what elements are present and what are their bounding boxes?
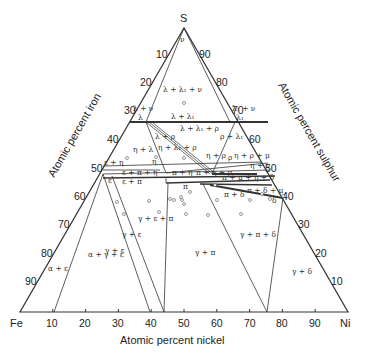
bottom-tick-70: 70	[244, 317, 256, 329]
label-rho: ρ	[228, 153, 233, 162]
bottom-tick-60: 60	[211, 317, 223, 329]
phase-boundaries	[54, 28, 283, 312]
label-eta-l: η + λ	[133, 145, 154, 154]
right-tick-10: 10	[331, 275, 343, 287]
label-gam-pi-delta: γ + π + δ	[240, 230, 277, 239]
right-tick-80: 80	[216, 76, 228, 88]
label-a-gam-eps: α + γ + ε	[88, 250, 124, 259]
phase-labels: ν λ + λ₁ + ν λ + ν λ₁ + ν λ λ + λ₁ λ₁ λ …	[48, 35, 313, 276]
bottom-tick-10: 10	[46, 317, 58, 329]
ternary-phase-diagram: S Fe Ni 10 20 30 40 50 60 70 80 90 Atomi…	[0, 0, 369, 357]
label-pi-eta: π + η	[172, 168, 193, 177]
label-gam-delta: γ + δ	[292, 267, 313, 276]
label-a-eps: α + ε	[48, 264, 68, 273]
label-eta-rho-mu: η + ρ + μ	[234, 151, 270, 160]
left-tick-70: 70	[58, 218, 70, 230]
label-l-left: λ	[138, 113, 143, 122]
label-eps-eta: ε + η	[104, 158, 124, 167]
left-tick-50: 50	[91, 162, 103, 174]
label-l-l1-nu: λ + λ₁ + ν	[163, 85, 203, 94]
right-axis-title: Atomic percent sulphur	[276, 80, 343, 184]
label-pi-delta: π + δ	[224, 190, 245, 199]
bottom-tick-40: 40	[145, 317, 157, 329]
vertex-ni-label: Ni	[340, 317, 350, 329]
label-l-l1: λ + λ₁	[171, 112, 195, 121]
label-nu: ν	[180, 35, 185, 44]
label-gam-eps-a: γ + ε	[122, 230, 142, 239]
label-l1-nu: λ₁ + ν	[232, 104, 256, 113]
bottom-tick-90: 90	[309, 317, 321, 329]
right-tick-30: 30	[298, 218, 310, 230]
label-eps-pi-eta: ε + π + η	[122, 168, 158, 177]
label-l1-right: λ₁	[236, 113, 244, 122]
label-gam-eps-pi: γ + ε + π	[138, 214, 173, 223]
label-delta: δ	[272, 196, 277, 205]
label-eps: ε	[108, 176, 112, 185]
label-l-l1-rho: λ + λ₁ + ρ	[180, 124, 220, 133]
label-l-nu: λ + ν	[133, 104, 154, 113]
label-eta: η	[152, 157, 157, 166]
left-tick-20: 20	[140, 76, 152, 88]
right-tick-20: 20	[315, 247, 327, 259]
label-eps-pi: ε + π	[122, 177, 142, 186]
bottom-tick-50: 50	[178, 317, 190, 329]
label-pi-mu-eta-delta: π + μ + η + δ	[222, 173, 274, 182]
label-rho-l1: ρ + λ₁	[220, 132, 243, 141]
label-gam-pi: γ + π	[195, 248, 216, 257]
bottom-axis-title: Atomic percent nickel	[120, 334, 225, 346]
right-tick-60: 60	[249, 133, 261, 145]
label-eta-rho: η + ρ	[206, 151, 227, 160]
bottom-tick-30: 30	[112, 317, 124, 329]
label-pi: π	[183, 182, 188, 191]
left-tick-10: 10	[156, 48, 168, 60]
left-tick-90: 90	[25, 275, 37, 287]
bottom-tick-80: 80	[276, 317, 288, 329]
right-tick-90: 90	[199, 48, 211, 60]
left-tick-60: 60	[74, 190, 86, 202]
label-pi-delta-mu: π + δ + μ	[247, 186, 284, 195]
vertex-s-label: S	[180, 12, 187, 24]
bottom-tick-20: 20	[79, 317, 91, 329]
vertex-fe-label: Fe	[10, 317, 23, 329]
label-eta-nu: η + ν	[250, 161, 271, 170]
label-eta-l1-rho: η + λ₁ + ρ	[158, 143, 197, 152]
left-tick-40: 40	[107, 133, 119, 145]
label-l-rho: λ + ρ	[155, 132, 176, 141]
left-tick-80: 80	[41, 247, 53, 259]
